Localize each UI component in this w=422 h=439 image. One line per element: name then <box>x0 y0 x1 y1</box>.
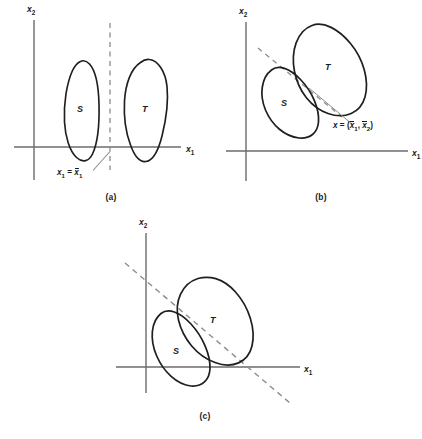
panel-b-x-axis-label: x1 <box>412 148 420 160</box>
panel-b-dashed-boundary <box>258 48 342 117</box>
panel-a: x2 x1 S T x1 = x1 (a) <box>0 0 211 215</box>
panel-b-y-axis-label: x2 <box>239 6 247 18</box>
panel-c-graphic <box>60 215 362 439</box>
figure-three-panel-separation: x2 x1 S T x1 = x1 (a) x2 <box>0 0 422 439</box>
panel-b-mean-point-annotation: x = (x1, x2) <box>333 121 373 132</box>
panel-c-region-s-outline <box>152 311 210 386</box>
panel-a-graphic <box>0 0 211 215</box>
panel-c-caption: (c) <box>190 411 220 421</box>
panel-b-graphic <box>211 0 422 215</box>
panel-c-dashed-boundary <box>125 263 290 403</box>
panel-a-region-t-label: T <box>142 104 148 114</box>
panel-c-region-t-label: T <box>210 315 216 325</box>
panel-c-region-s-label: S <box>173 346 179 356</box>
panel-a-boundary-annotation: x1 = x1 <box>57 168 82 179</box>
panel-a-x-axis-label: x1 <box>186 144 194 156</box>
panel-a-caption: (a) <box>96 192 126 202</box>
panel-c: x2 x1 T S (c) <box>60 215 362 439</box>
panel-a-region-s-label: S <box>77 104 83 114</box>
panel-a-y-axis-label: x2 <box>27 4 35 16</box>
panel-c-x-axis-label: x1 <box>304 364 312 376</box>
panel-a-leader-line <box>93 152 110 171</box>
panel-b: x2 x1 T S x = (x1, x2) (b) <box>211 0 422 215</box>
panel-b-region-t-label: T <box>325 62 331 72</box>
panel-b-region-s-label: S <box>281 98 287 108</box>
panel-c-y-axis-label: x2 <box>139 217 147 229</box>
panel-b-caption: (b) <box>306 192 336 202</box>
